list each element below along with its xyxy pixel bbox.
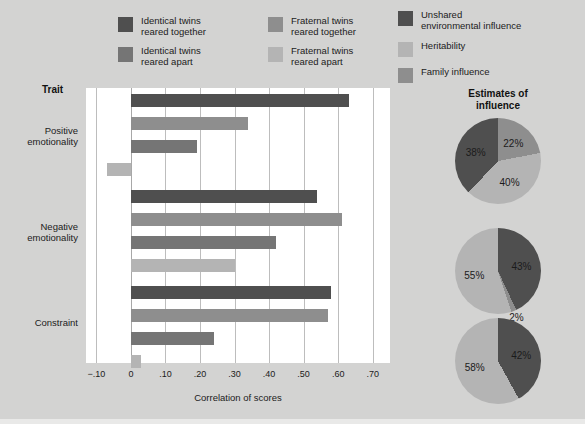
bar-chart-plot-area <box>86 88 390 363</box>
constraint-pie-slice-label-0: 42% <box>511 350 531 361</box>
pie-chart-legend: Unshared environmental influenceHeritabi… <box>398 10 578 93</box>
x-tick-4: .30 <box>228 369 241 379</box>
pies-title: Estimates of influence <box>438 88 558 112</box>
swatch-identical-together <box>118 17 133 32</box>
bar-group-2-series-0 <box>131 286 331 299</box>
x-tick-8: .70 <box>366 369 379 379</box>
positive-emotionality-pie-disc <box>455 118 541 204</box>
bar-legend-item: Identical twins reared apart <box>118 46 268 76</box>
x-tick-0: −.10 <box>87 369 105 379</box>
gridline-8 <box>373 88 374 363</box>
positive-emotionality-pie-slice-label-0: 22% <box>503 137 523 148</box>
bar-legend-item: Fraternal twins reared apart <box>268 46 408 76</box>
bar-legend-label: Identical twins reared apart <box>141 46 201 67</box>
pie-legend-label: Heritability <box>421 41 465 52</box>
pie-legend-item: Heritability <box>398 41 578 57</box>
pie-legend-item: Family influence <box>398 67 578 83</box>
negative-emotionality-pie-slice-label-0: 43% <box>511 260 531 271</box>
bar-legend-label: Fraternal twins reared apart <box>291 46 353 67</box>
x-tick-3: .20 <box>194 369 207 379</box>
bar-group-1-series-3 <box>131 259 235 272</box>
swatch-fraternal-together <box>268 17 283 32</box>
gridline-0 <box>96 88 97 363</box>
bar-chart-legend: Identical twins reared togetherFraternal… <box>118 16 408 76</box>
bar-group-0-series-0 <box>131 94 349 107</box>
negative-emotionality-pie-slice-label-2: 55% <box>464 269 484 280</box>
bar-group-0-series-2 <box>131 140 197 153</box>
bar-legend-item: Identical twins reared together <box>118 16 268 46</box>
positive-emotionality-pie-slice-label-1: 40% <box>500 177 520 188</box>
x-tick-6: .50 <box>297 369 310 379</box>
bar-legend-label: Fraternal twins reared together <box>291 16 356 37</box>
trait-column-header: Trait <box>42 84 63 95</box>
bar-group-2-series-2 <box>131 332 214 345</box>
x-tick-5: .40 <box>263 369 276 379</box>
swatch-fraternal-apart <box>268 47 283 62</box>
positive-emotionality-pie-slice-label-2: 38% <box>466 147 486 158</box>
x-tick-2: .10 <box>159 369 172 379</box>
bar-group-1-series-2 <box>131 236 276 249</box>
pie-legend-label: Unshared environmental influence <box>421 10 521 31</box>
constraint-pie-slice-label-1: 58% <box>465 361 485 372</box>
pie-legend-item: Unshared environmental influence <box>398 10 578 31</box>
constraint-pie: 42%58% <box>455 318 541 404</box>
bar-group-1-series-1 <box>131 213 342 226</box>
positive-emotionality-pie: 22%40%38% <box>455 118 541 204</box>
x-tick-1: 0 <box>128 369 133 379</box>
negative-emotionality-pie: 43%2%55% <box>455 228 541 314</box>
trait-label-1: Negative emotionality <box>8 222 78 243</box>
bar-legend-label: Identical twins reared together <box>141 16 206 37</box>
bar-group-2-series-3 <box>131 355 141 368</box>
swatch-family-influence <box>398 68 413 83</box>
x-axis-title: Correlation of scores <box>86 392 390 403</box>
swatch-unshared-environmental <box>398 11 413 26</box>
bar-group-0-series-3 <box>107 163 131 176</box>
pie-legend-label: Family influence <box>421 67 490 78</box>
bar-legend-item: Fraternal twins reared together <box>268 16 408 46</box>
trait-label-2: Constraint <box>8 318 78 329</box>
x-tick-7: .60 <box>332 369 345 379</box>
bar-group-2-series-1 <box>131 309 328 322</box>
swatch-heritability <box>398 42 413 57</box>
swatch-identical-apart <box>118 47 133 62</box>
bar-group-1-series-0 <box>131 190 318 203</box>
bar-group-0-series-1 <box>131 117 248 130</box>
twin-study-figure: Identical twins reared togetherFraternal… <box>0 0 585 424</box>
trait-label-0: Positive emotionality <box>8 126 78 147</box>
